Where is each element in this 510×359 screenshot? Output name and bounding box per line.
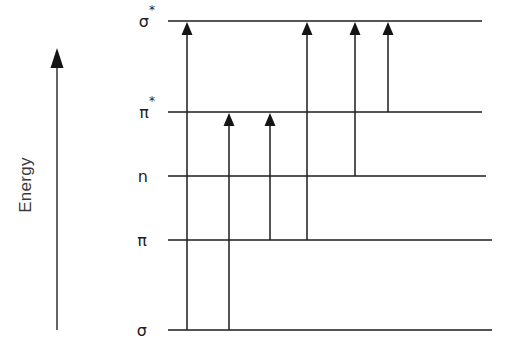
transition-pi-to-sigma-star <box>302 22 313 240</box>
energy-axis: Energy <box>16 48 63 330</box>
energy-level-label-n: n <box>138 167 148 186</box>
transition-arrowhead-pi-star-to-sigma-star <box>383 22 394 35</box>
transition-arrowhead-sigma-to-sigma-star <box>182 22 193 35</box>
energy-level-label-pi-star: π* <box>139 94 155 122</box>
transition-pi-star-to-sigma-star <box>383 22 394 112</box>
energy-level-label-sigma: σ <box>137 321 147 340</box>
transition-arrowhead-sigma-to-pi-star <box>224 113 235 126</box>
energy-axis-arrowhead <box>51 48 64 68</box>
transition-n-to-sigma-star <box>350 22 361 176</box>
energy-axis-label: Energy <box>16 157 35 213</box>
energy-levels-group: σ*π*nπσ <box>137 3 492 340</box>
energy-level-star-sigma-star: * <box>149 3 155 17</box>
transition-sigma-to-pi-star <box>224 113 235 330</box>
energy-level-star-pi-star: * <box>149 94 155 108</box>
energy-level-label-pi: π <box>137 231 147 250</box>
transition-arrowhead-pi-to-sigma-star <box>302 22 313 35</box>
transition-arrowhead-n-to-sigma-star <box>350 22 361 35</box>
diagram-canvas: Energy σ*π*nπσ <box>0 0 510 359</box>
molecular-orbital-diagram: Energy σ*π*nπσ <box>0 0 510 359</box>
transition-arrowhead-pi-to-pi-star <box>265 113 276 126</box>
energy-level-label-sigma-star: σ* <box>139 3 155 31</box>
